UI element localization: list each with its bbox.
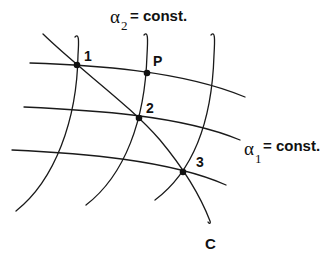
point-2-label: 2 — [146, 100, 154, 116]
alpha-subscript: 2 — [121, 18, 128, 33]
point-1-label: 1 — [84, 48, 92, 64]
alpha-symbol: α — [110, 6, 120, 27]
const-text: = const. — [130, 7, 187, 24]
coordinate-curves-diagram: 1 P 2 3 C α 2 = const. α 1 = const. — [0, 0, 335, 257]
alpha2-curve-1 — [16, 36, 79, 211]
alpha2-curve-3 — [155, 34, 215, 200]
curve-c — [43, 34, 210, 223]
point-2-marker — [136, 115, 143, 122]
alpha2-const-label: α 2 = const. — [110, 6, 187, 33]
point-1-marker — [74, 62, 81, 69]
point-p-marker — [144, 70, 151, 77]
point-p-label: P — [153, 53, 162, 69]
point-3-marker — [180, 169, 187, 176]
const-text: = const. — [263, 137, 320, 154]
alpha1-const-label: α 1 = const. — [244, 137, 320, 166]
curve-c-label: C — [205, 235, 216, 252]
alpha-subscript: 1 — [255, 151, 262, 166]
point-3-label: 3 — [196, 154, 204, 170]
alpha-symbol: α — [244, 138, 254, 159]
